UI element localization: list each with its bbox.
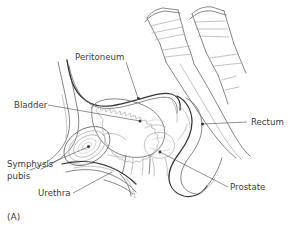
dot-rectum	[201, 123, 204, 126]
label-urethra: Urethra	[38, 188, 71, 198]
label-peritoneum: Peritoneum	[75, 52, 124, 62]
anatomy-diagram: Peritoneum Bladder Symphysis pubis Ureth…	[0, 0, 296, 234]
label-symphysis-line1: Symphysis	[7, 159, 54, 169]
dot-peritoneum	[137, 97, 140, 100]
dot-symphysis	[87, 145, 90, 148]
label-bladder: Bladder	[14, 100, 48, 110]
label-rectum: Rectum	[251, 117, 284, 127]
label-symphysis-line2: pubis	[7, 171, 31, 181]
label-prostate: Prostate	[230, 182, 265, 192]
panel-label: (A)	[7, 212, 20, 222]
dot-prostate	[159, 151, 162, 154]
dot-bladder	[139, 120, 142, 123]
